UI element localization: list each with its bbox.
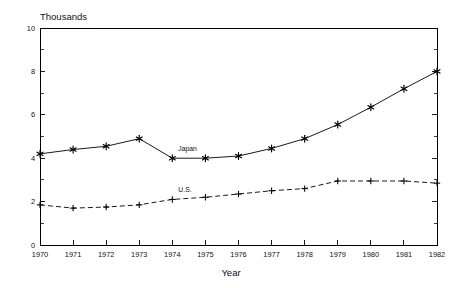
x-tick-label: 1982: [429, 250, 445, 259]
series-lines: [40, 71, 437, 208]
y-axis-tick-labels: 0246810: [27, 24, 35, 250]
data-point-u-s: [301, 185, 307, 191]
data-point-japan: [302, 135, 308, 142]
line-chart: Thousands 0246810 1970197119721973197419…: [0, 0, 462, 288]
plot-frame: [40, 28, 437, 245]
data-point-u-s: [434, 180, 440, 186]
data-point-u-s: [202, 194, 208, 200]
x-axis-tick-labels: 1970197119721973197419751976197719781979…: [32, 250, 445, 259]
x-axis-ticks: [40, 240, 437, 245]
data-point-u-s: [37, 202, 43, 208]
y-tick-label: 2: [31, 197, 35, 206]
series-markers: [37, 68, 440, 211]
data-point-u-s: [136, 202, 142, 208]
x-axis-title: Year: [221, 267, 240, 278]
series-label-u-s: U.S.: [178, 186, 191, 193]
chart-container: Thousands 0246810 1970197119721973197419…: [0, 0, 462, 288]
y-tick-label: 0: [31, 241, 35, 250]
data-point-u-s: [103, 204, 109, 210]
x-tick-label: 1972: [98, 250, 114, 259]
data-point-u-s: [401, 178, 407, 184]
x-tick-label: 1971: [65, 250, 81, 259]
x-tick-label: 1978: [296, 250, 312, 259]
data-point-u-s: [169, 196, 175, 202]
data-point-u-s: [335, 178, 341, 184]
y-tick-label: 4: [31, 154, 35, 163]
x-tick-label: 1977: [263, 250, 279, 259]
data-point-japan: [269, 145, 275, 152]
data-point-japan: [335, 121, 341, 128]
data-point-u-s: [368, 178, 374, 184]
series-line-japan: [40, 71, 437, 158]
data-point-japan: [401, 85, 407, 92]
x-tick-label: 1970: [32, 250, 48, 259]
y-tick-label: 8: [31, 67, 35, 76]
plot-frame-border: [40, 28, 437, 245]
data-point-japan: [136, 135, 142, 142]
series-inline-labels: JapanU.S.: [178, 145, 197, 193]
x-tick-label: 1981: [396, 250, 412, 259]
y-axis-ticks: [40, 28, 437, 245]
x-tick-label: 1975: [197, 250, 213, 259]
y-tick-label: 6: [31, 110, 35, 119]
x-tick-label: 1973: [131, 250, 147, 259]
data-point-u-s: [268, 188, 274, 194]
data-point-u-s: [235, 191, 241, 197]
x-tick-label: 1974: [164, 250, 180, 259]
x-tick-label: 1976: [230, 250, 246, 259]
x-tick-label: 1979: [330, 250, 346, 259]
y-axis-unit-label: Thousands: [40, 11, 87, 22]
x-tick-label: 1980: [363, 250, 379, 259]
y-tick-label: 10: [27, 24, 35, 33]
data-point-u-s: [70, 205, 76, 211]
data-point-japan: [368, 104, 374, 111]
series-label-japan: Japan: [178, 145, 197, 153]
